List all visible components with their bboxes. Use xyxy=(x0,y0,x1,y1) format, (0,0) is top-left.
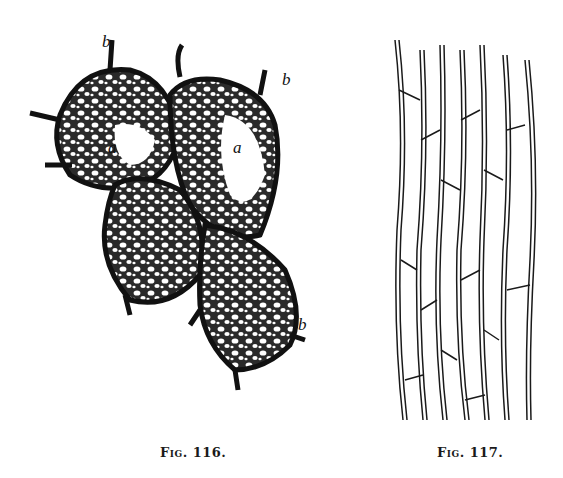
label-b-top-left: b xyxy=(102,32,111,51)
figure-116-caption: Fig. 116. xyxy=(160,445,226,460)
figure-117-caption: Fig. 117. xyxy=(437,445,503,460)
figure-116-reticulate-cells: b b a a b xyxy=(20,25,340,395)
elongated-cells-illustration xyxy=(385,30,555,430)
figure-117-elongated-cells xyxy=(385,30,555,430)
label-a-left: a xyxy=(108,138,117,157)
label-b-top-right: b xyxy=(282,70,291,89)
label-b-bottom: b xyxy=(298,315,307,334)
cell-cluster-illustration: b b a a b xyxy=(20,25,340,395)
label-a-right: a xyxy=(233,138,242,157)
